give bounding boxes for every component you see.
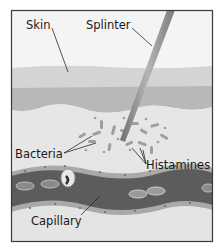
label-skin: Skin xyxy=(26,18,50,32)
label-bacteria: Bacteria xyxy=(15,147,63,161)
label-splinter: Splinter xyxy=(86,18,131,32)
label-histamines: Histamines xyxy=(146,158,210,172)
illustration-body xyxy=(11,10,214,242)
splinter-inflammation-diagram: Skin Splinter Bacteria Histamines Capill… xyxy=(0,0,218,251)
label-capillary: Capillary xyxy=(31,214,82,228)
white-blood-cell xyxy=(61,169,75,187)
